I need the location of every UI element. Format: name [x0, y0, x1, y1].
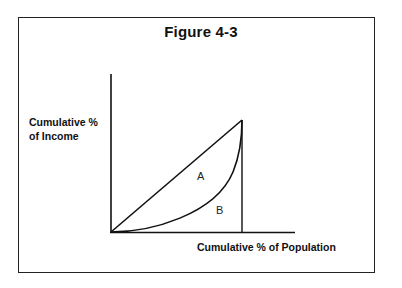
x-axis-label: Cumulative % of Population [197, 241, 336, 253]
region-b-label: B [216, 204, 223, 216]
region-a-label: A [197, 170, 204, 182]
